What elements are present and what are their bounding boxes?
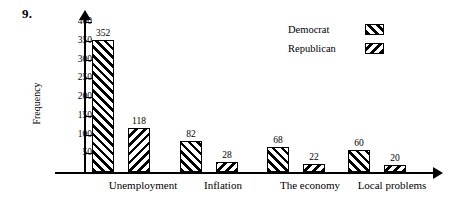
y-axis-tick-label-row: 400 bbox=[52, 17, 92, 27]
bar-value-label: 60 bbox=[342, 138, 376, 148]
y-axis-title: Frequency bbox=[31, 64, 42, 144]
bar-value-label: 22 bbox=[297, 152, 331, 162]
chart-legend: DemocratRepublican bbox=[288, 22, 400, 60]
bar-value-label: 118 bbox=[122, 116, 156, 126]
legend-swatch-icon bbox=[365, 24, 384, 35]
x-axis-line bbox=[55, 172, 435, 174]
y-axis-tick-label-row: 300 bbox=[52, 55, 92, 65]
bar bbox=[348, 150, 370, 173]
bar-value-label: 68 bbox=[261, 135, 295, 145]
bar bbox=[267, 147, 289, 173]
y-axis-tick-label: 150 bbox=[66, 111, 92, 120]
bar bbox=[92, 40, 114, 172]
chart-screenshot: 9. Frequency 50100150200250300350400 352… bbox=[0, 0, 463, 212]
bar bbox=[216, 162, 238, 173]
y-axis-tick-label-row: 250 bbox=[52, 73, 92, 83]
y-axis-tick-label-row: 150 bbox=[52, 111, 92, 121]
x-axis-category-label: Local problems bbox=[332, 179, 452, 192]
y-axis-tick-label: 300 bbox=[66, 55, 92, 64]
bar-value-label: 28 bbox=[210, 150, 244, 160]
y-axis-tick-label: 250 bbox=[66, 73, 92, 82]
legend-item: Democrat bbox=[288, 22, 400, 41]
bar bbox=[384, 165, 406, 173]
bar bbox=[303, 164, 325, 172]
legend-item-label: Democrat bbox=[288, 24, 329, 36]
bar-chart: Frequency 50100150200250300350400 352118… bbox=[0, 0, 463, 212]
bar-value-label: 352 bbox=[86, 28, 120, 38]
legend-item: Republican bbox=[288, 41, 400, 60]
bar-value-label: 82 bbox=[174, 129, 208, 139]
legend-swatch-icon bbox=[365, 43, 384, 54]
y-axis-tick-label: 50 bbox=[66, 148, 92, 157]
legend-item-label: Republican bbox=[288, 43, 336, 55]
y-axis-tick-label-row: 200 bbox=[52, 92, 92, 102]
y-axis-tick-label: 100 bbox=[66, 130, 92, 139]
y-axis-tick-label-row: 50 bbox=[52, 148, 92, 158]
bar bbox=[180, 141, 202, 172]
y-axis-tick-label-row: 100 bbox=[52, 130, 92, 140]
y-axis-tick-label: 200 bbox=[66, 92, 92, 101]
x-axis-arrow-icon bbox=[433, 167, 443, 179]
y-axis-tick-label: 400 bbox=[66, 17, 92, 26]
bar bbox=[128, 128, 150, 172]
bar-value-label: 20 bbox=[378, 153, 412, 163]
